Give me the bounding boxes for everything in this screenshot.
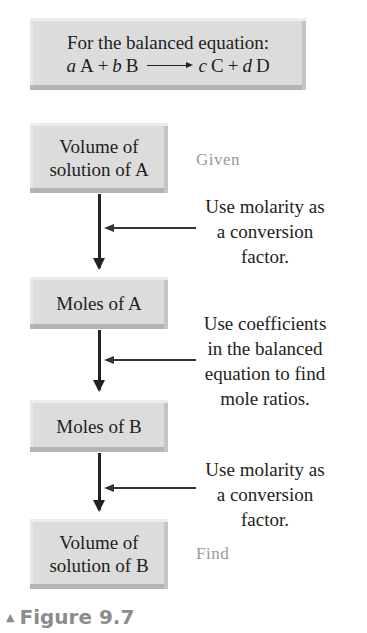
left-arrow-icon <box>106 487 196 489</box>
box-label: Moles of A <box>56 292 142 315</box>
coefficient-d: d <box>242 54 252 77</box>
conversion-note-molarity-2: Use molarity as a conversion factor. <box>190 457 340 532</box>
down-arrow-icon <box>98 330 101 390</box>
equation-formula: a A + b B c C + d D <box>66 54 269 77</box>
equation-heading: For the balanced equation: <box>67 31 269 54</box>
caption-text: Figure 9.7 <box>19 605 134 629</box>
species-a: A <box>80 54 94 77</box>
note-line: mole ratios. <box>190 386 340 411</box>
note-line: Use molarity as <box>190 457 340 482</box>
box-label: solution of B <box>49 554 148 577</box>
note-line: Use coefficients <box>190 311 340 336</box>
coefficient-b: b <box>112 54 122 77</box>
note-line: equation to find <box>190 361 340 386</box>
plus-sign: + <box>228 54 239 77</box>
coefficient-a: a <box>66 54 76 77</box>
volume-solution-a-box: Volume of solution of A <box>30 123 168 193</box>
triangle-marker-icon: ▲ <box>6 611 14 624</box>
down-arrow-icon <box>98 453 101 510</box>
note-line: a conversion <box>190 219 340 244</box>
species-d: D <box>256 54 270 77</box>
down-arrow-icon <box>98 194 101 268</box>
note-line: factor. <box>190 507 340 532</box>
moles-a-box: Moles of A <box>30 277 168 329</box>
left-arrow-icon <box>106 227 196 229</box>
box-label: solution of A <box>49 158 148 181</box>
reaction-arrow-icon <box>147 65 191 66</box>
find-label: Find <box>196 544 229 564</box>
left-arrow-icon <box>106 359 196 361</box>
given-label: Given <box>196 150 240 170</box>
balanced-equation-box: For the balanced equation: a A + b B c C… <box>30 18 306 90</box>
note-line: a conversion <box>190 482 340 507</box>
species-b: B <box>126 54 139 77</box>
note-line: factor. <box>190 244 340 269</box>
box-label: Moles of B <box>56 415 142 438</box>
species-c: C <box>211 54 224 77</box>
coefficient-c: c <box>199 54 207 77</box>
box-label: Volume of <box>59 531 138 554</box>
volume-solution-b-box: Volume of solution of B <box>30 519 168 589</box>
note-line: in the balanced <box>190 336 340 361</box>
plus-sign: + <box>98 54 109 77</box>
conversion-note-coefficients: Use coefficients in the balanced equatio… <box>190 311 340 411</box>
conversion-note-molarity-1: Use molarity as a conversion factor. <box>190 194 340 269</box>
figure-caption: ▲Figure 9.7 <box>6 605 134 629</box>
moles-b-box: Moles of B <box>30 400 168 452</box>
box-label: Volume of <box>59 135 138 158</box>
note-line: Use molarity as <box>190 194 340 219</box>
